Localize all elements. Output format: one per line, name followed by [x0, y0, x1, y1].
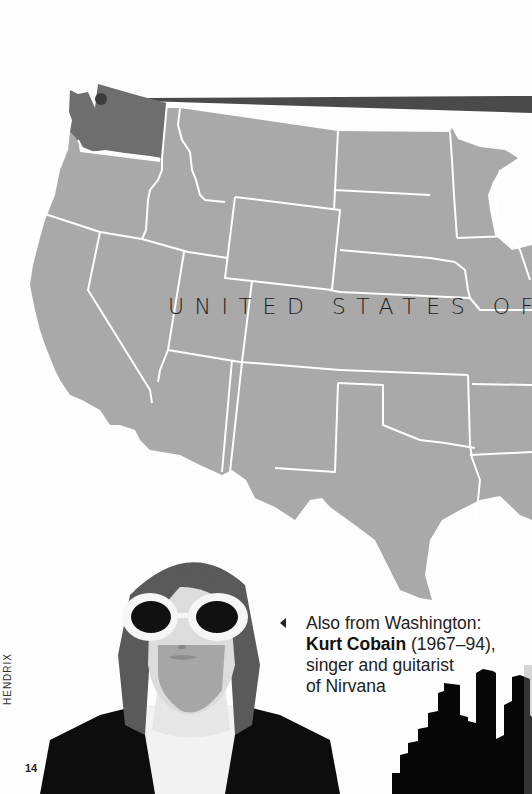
caption-line-1: Also from Washington:	[290, 613, 532, 634]
location-dot-icon	[95, 93, 107, 105]
running-head: HENDRIX	[2, 645, 16, 705]
caption-dates: (1967–94),	[406, 634, 496, 654]
caption-line-2: Kurt Cobain (1967–94),	[290, 634, 532, 655]
caption-name: Kurt Cobain	[306, 634, 406, 654]
city-skyline-icon	[388, 665, 532, 794]
book-page: UNITED STATES OF Also from Washington: K…	[0, 0, 532, 794]
washington-state	[69, 84, 167, 158]
land-mass	[30, 108, 532, 600]
map-title: UNITED STATES OF	[168, 296, 532, 318]
page-number: 14	[25, 762, 37, 774]
left-triangle-icon	[280, 618, 286, 628]
